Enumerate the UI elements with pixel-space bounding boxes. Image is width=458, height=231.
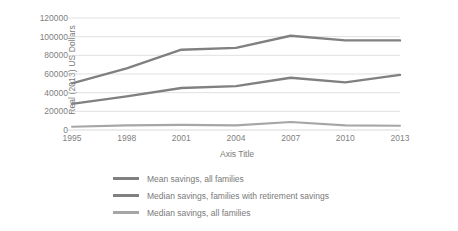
x-axis-tick-label: 1995 — [63, 133, 82, 143]
legend-color-swatch — [113, 194, 139, 197]
x-axis-tick-label: 2010 — [336, 133, 355, 143]
x-axis-tick-label: 2013 — [391, 133, 410, 143]
x-axis-tick-label: 1998 — [117, 133, 136, 143]
legend-color-swatch — [113, 211, 139, 214]
x-axis-title: Axis Title — [72, 149, 402, 159]
x-axis-title-label: Axis Title — [220, 149, 254, 159]
legend-item[interactable]: Mean savings, all families — [0, 170, 458, 187]
x-axis-tick-label: 2007 — [281, 133, 300, 143]
legend-color-swatch — [113, 177, 139, 180]
chart-legend: Mean savings, all familiesMedian savings… — [0, 170, 458, 221]
x-axis-tick-label: 2004 — [227, 133, 246, 143]
legend-item-label: Median savings, families with retirement… — [147, 191, 329, 201]
x-axis-tick-labels: 1995199820012004200720102013 — [72, 133, 402, 147]
series-line — [72, 122, 400, 127]
legend-item[interactable]: Median savings, all families — [0, 204, 458, 221]
legend-item[interactable]: Median savings, families with retirement… — [0, 187, 458, 204]
legend-item-label: Median savings, all families — [147, 208, 250, 218]
legend-item-label: Mean savings, all families — [147, 174, 244, 184]
series-line — [72, 75, 400, 104]
x-axis-tick-label: 2001 — [172, 133, 191, 143]
line-chart: Real (2013) US Dollars 12000010000080000… — [0, 0, 458, 231]
series-line — [72, 36, 400, 84]
